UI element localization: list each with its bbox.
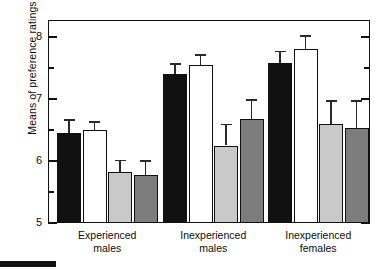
bar-g2-s4	[240, 119, 264, 223]
y-tick-major-8	[48, 36, 57, 38]
y-tick-minor-5-5	[48, 191, 54, 193]
category-label-3: Inexperiencedfemales	[258, 229, 378, 255]
bar-chart: Means of preference ratings 5678 Experie…	[0, 0, 378, 270]
y-tick-minor-7-5-right	[364, 67, 370, 69]
bar-g3-s2	[294, 49, 318, 223]
y-tick-major-6	[48, 160, 57, 162]
category-label-3-line1: Inexperienced	[285, 229, 351, 241]
y-tick-major-7-right	[361, 98, 370, 100]
errorbar-stem-g2-s4	[251, 99, 253, 119]
y-tick-label-8: 8	[20, 30, 42, 42]
errorbar-cap-g2-s1	[170, 63, 181, 65]
bar-g1-s2	[83, 130, 107, 223]
bar-g3-s3	[319, 124, 343, 223]
category-label-3-line2: females	[258, 242, 378, 255]
bar-g1-s3	[108, 172, 132, 223]
category-label-2: Inexperiencedmales	[153, 229, 273, 255]
y-axis-label: Means of preference ratings	[26, 0, 38, 163]
errorbar-stem-g3-s1	[279, 51, 281, 63]
bar-g2-s1	[163, 74, 187, 223]
y-tick-major-7	[48, 98, 57, 100]
bar-g3-s4	[345, 128, 369, 223]
errorbar-stem-g3-s3	[330, 100, 332, 124]
y-tick-minor-7-5	[48, 67, 54, 69]
errorbar-cap-g3-s4	[351, 100, 362, 102]
errorbar-cap-g2-s2	[195, 54, 206, 56]
errorbar-stem-g1-s1	[68, 119, 70, 133]
y-tick-label-7: 7	[20, 92, 42, 104]
errorbar-cap-g1-s1	[64, 119, 75, 121]
y-tick-major-8-right	[361, 36, 370, 38]
category-label-2-line2: males	[153, 242, 273, 255]
y-tick-label-6: 6	[20, 154, 42, 166]
errorbar-cap-g3-s3	[326, 100, 337, 102]
errorbar-stem-g1-s4	[145, 160, 147, 175]
errorbar-cap-g1-s3	[115, 160, 126, 162]
errorbar-stem-g2-s3	[225, 124, 227, 146]
errorbar-cap-g2-s4	[246, 99, 257, 101]
errorbar-stem-g3-s2	[305, 35, 307, 49]
errorbar-cap-g1-s4	[140, 160, 151, 162]
category-label-1-line1: Experienced	[78, 229, 136, 241]
errorbar-cap-g2-s3	[221, 124, 232, 126]
bar-g2-s3	[214, 146, 238, 224]
errorbar-cap-g3-s2	[300, 35, 311, 37]
bar-g2-s2	[189, 65, 213, 223]
bar-g3-s1	[268, 63, 292, 223]
y-tick-label-5: 5	[20, 216, 42, 228]
errorbar-cap-g1-s2	[89, 121, 100, 123]
errorbar-stem-g1-s3	[119, 160, 121, 172]
y-tick-major-5	[48, 222, 57, 224]
category-label-1: Experiencedmales	[47, 229, 167, 255]
errorbar-stem-g3-s4	[356, 100, 358, 128]
y-tick-minor-6-5	[48, 129, 54, 131]
corner-rule-mark	[0, 261, 56, 267]
category-label-2-line1: Inexperienced	[180, 229, 246, 241]
errorbar-stem-g2-s1	[174, 63, 176, 74]
category-label-1-line2: males	[47, 242, 167, 255]
errorbar-cap-g3-s1	[275, 51, 286, 53]
errorbar-stem-g2-s2	[200, 54, 202, 65]
bar-g1-s1	[57, 133, 81, 223]
bar-g1-s4	[134, 175, 158, 223]
